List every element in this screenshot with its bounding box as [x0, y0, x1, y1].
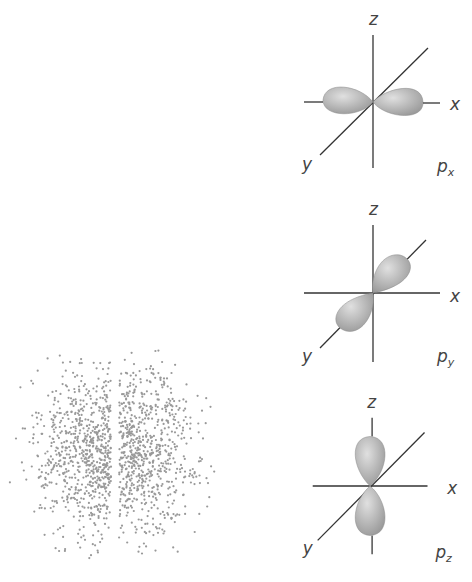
orbital-subscript: x [447, 166, 455, 179]
py-lobe-lower [336, 293, 374, 331]
pz-orbital-diagram: z x y pz [290, 390, 472, 580]
pz-lobe-upper [355, 437, 385, 486]
y-axis-label: y [301, 346, 313, 366]
orbital-label: p [436, 156, 448, 176]
y-axis-label: y [301, 154, 313, 174]
py-lobe-upper [373, 255, 411, 293]
py-orbital-diagram: z x y py [290, 190, 472, 380]
svg-text:pz: pz [434, 542, 452, 565]
x-axis-label: x [449, 286, 461, 306]
orbital-label: p [434, 542, 446, 562]
electron-density-cloud [0, 330, 240, 570]
z-axis-label: z [368, 9, 379, 29]
pz-lobe-lower [355, 486, 385, 535]
px-orbital-diagram: z x y px [290, 0, 472, 190]
y-axis-label: y [302, 538, 314, 558]
orbital-label: p [436, 346, 448, 366]
orbital-subscript: z [445, 552, 452, 565]
px-lobe-right [373, 88, 423, 115]
orbital-subscript: y [447, 356, 455, 369]
x-axis-label: x [446, 478, 458, 498]
z-axis-label: z [366, 392, 377, 412]
z-axis-label: z [368, 199, 379, 219]
svg-text:px: px [436, 156, 455, 179]
x-axis-label: x [449, 94, 461, 114]
svg-text:py: py [436, 346, 455, 369]
